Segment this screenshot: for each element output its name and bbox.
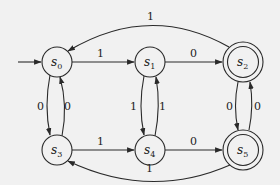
edge-label-s3-s4: 1 <box>97 135 104 148</box>
state-s0: s0 <box>42 47 72 77</box>
edge-label-s5-s3: 1 <box>146 162 153 175</box>
edge-label-s1-s2: 0 <box>190 47 197 60</box>
edge-label-s0-s3: 0 <box>37 100 44 113</box>
svg-text:s5: s5 <box>237 143 248 159</box>
edge-s4-s1 <box>155 77 158 136</box>
state-diagram: s0 s1 s2 s3 s4 s5 1 0 1 0 0 1 1 0 <box>0 0 280 185</box>
edge-s5-s2 <box>249 82 252 130</box>
edge-s2-s5 <box>236 82 239 130</box>
edge-label-s4-s1: 1 <box>159 100 166 113</box>
edge-label-s2-s0: 1 <box>147 10 154 23</box>
edge-label-s2-s5: 0 <box>226 100 233 113</box>
edge-label-s3-s0: 0 <box>64 100 71 113</box>
svg-text:s0: s0 <box>51 55 62 71</box>
edge-label-s4-s5: 0 <box>190 135 197 148</box>
edge-s1-s4 <box>141 76 144 135</box>
svg-text:s4: s4 <box>144 143 155 159</box>
edge-label-s1-s4: 1 <box>130 100 137 113</box>
svg-text:s1: s1 <box>144 55 155 71</box>
state-s3: s3 <box>42 135 72 165</box>
state-s4: s4 <box>135 135 165 165</box>
svg-text:s2: s2 <box>237 55 248 71</box>
state-s2-accepting: s2 <box>223 42 263 82</box>
edge-label-s5-s2: 0 <box>254 100 261 113</box>
edge-label-s0-s1: 1 <box>97 47 104 60</box>
state-s1: s1 <box>135 47 165 77</box>
edge-s0-s3 <box>47 75 50 135</box>
state-s5-accepting: s5 <box>223 130 263 170</box>
svg-text:s3: s3 <box>51 143 62 159</box>
